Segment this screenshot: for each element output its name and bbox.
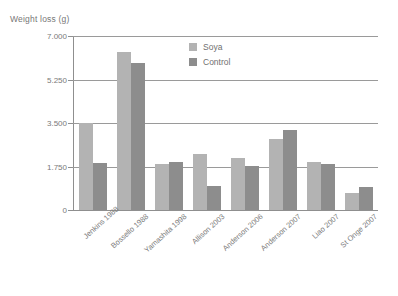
- y-axis-tick-label: 1.750: [5, 162, 67, 171]
- y-axis-tick: [68, 167, 73, 168]
- bar-soya: [155, 164, 169, 210]
- y-axis-tick-label: 3.500: [5, 119, 67, 128]
- legend-swatch-soya-icon: [189, 43, 197, 51]
- bar-control: [169, 162, 183, 210]
- y-axis-title: Weight loss (g): [10, 14, 70, 24]
- legend-item-control: Control: [189, 56, 230, 68]
- legend-item-soya: Soya: [189, 41, 230, 53]
- bar-soya: [307, 162, 321, 210]
- bar-control: [131, 63, 145, 210]
- bar-group: [302, 36, 340, 210]
- bar-soya: [79, 123, 93, 210]
- y-axis-tick-label: 7.000: [5, 32, 67, 41]
- bar-group: [264, 36, 302, 210]
- bar-control: [207, 186, 221, 210]
- bar-control: [321, 164, 335, 210]
- bar-group: [226, 36, 264, 210]
- bar-soya: [117, 52, 131, 210]
- bar-soya: [193, 154, 207, 210]
- y-axis-tick: [68, 123, 73, 124]
- bar-control: [93, 163, 107, 210]
- bar-group: [74, 36, 112, 210]
- bar-soya: [231, 158, 245, 210]
- x-axis-tick-labels: Jenkins 1988Bossello 1988Yamashita 1998A…: [73, 212, 378, 292]
- bar-chart: Weight loss (g) 01.7503.5005.2507.000 Je…: [0, 0, 398, 296]
- bar-control: [283, 130, 297, 210]
- legend-label-soya: Soya: [203, 42, 222, 52]
- legend-swatch-control-icon: [189, 58, 197, 66]
- bar-group: [150, 36, 188, 210]
- bar-soya: [345, 193, 359, 210]
- bar-control: [359, 187, 373, 210]
- y-axis-tick: [68, 36, 73, 37]
- x-axis-tick-label: Jenkins 1988: [81, 212, 112, 241]
- bar-control: [245, 166, 259, 210]
- y-axis-tick-label: 0: [5, 206, 67, 215]
- bar-soya: [269, 139, 283, 210]
- y-axis-tick: [68, 80, 73, 81]
- y-axis-tick-label: 5.250: [5, 75, 67, 84]
- bar-group: [112, 36, 150, 210]
- legend-label-control: Control: [203, 57, 230, 67]
- legend: Soya Control: [189, 41, 230, 71]
- bar-group: [340, 36, 378, 210]
